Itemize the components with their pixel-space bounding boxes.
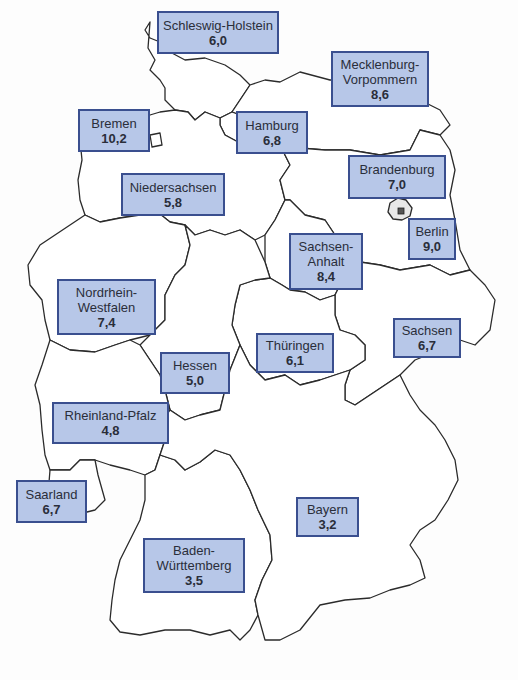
label-thueringen[interactable]: Thüringen 6,1	[256, 333, 334, 373]
state-name-line2: Westfalen	[78, 300, 136, 315]
state-name-line2: Württemberg	[156, 558, 231, 573]
state-name: Schleswig-Holstein	[163, 18, 273, 33]
label-sachsen-anhalt[interactable]: Sachsen- Anhalt 8,4	[289, 233, 363, 290]
label-rheinland-pfalz[interactable]: Rheinland-Pfalz 4,8	[52, 402, 169, 444]
state-name-line2: Vorpommern	[343, 72, 417, 87]
label-niedersachsen[interactable]: Niedersachsen 5,8	[121, 173, 225, 216]
state-value: 6,7	[42, 502, 60, 517]
label-hamburg[interactable]: Hamburg 6,8	[236, 111, 308, 154]
state-name: Sachsen	[402, 323, 453, 338]
state-name-line2: Anhalt	[308, 254, 345, 269]
state-value: 3,2	[318, 517, 336, 532]
state-name: Thüringen	[266, 338, 325, 353]
state-value: 7,4	[97, 315, 115, 330]
label-bremen[interactable]: Bremen 10,2	[78, 109, 150, 152]
label-baden-wuerttemberg[interactable]: Baden- Württemberg 3,5	[143, 538, 245, 593]
label-hessen[interactable]: Hessen 5,0	[160, 352, 230, 394]
state-value: 3,5	[185, 573, 203, 588]
state-name: Saarland	[25, 487, 77, 502]
state-name-line1: Sachsen-	[299, 239, 354, 254]
state-name-line1: Nordrhein-	[76, 285, 137, 300]
label-bayern[interactable]: Bayern 3,2	[296, 497, 359, 537]
state-value: 6,7	[418, 338, 436, 353]
state-value: 6,0	[209, 33, 227, 48]
state-name: Berlin	[415, 224, 448, 239]
state-name-line1: Mecklenburg-	[341, 57, 420, 72]
state-name: Bremen	[91, 116, 137, 131]
berlin-marker-icon	[398, 208, 404, 214]
state-bremen[interactable]	[150, 133, 162, 147]
label-berlin[interactable]: Berlin 9,0	[408, 218, 456, 260]
state-name: Hessen	[173, 358, 217, 373]
label-saarland[interactable]: Saarland 6,7	[16, 480, 87, 523]
state-name: Brandenburg	[359, 162, 434, 177]
state-value: 10,2	[101, 131, 126, 146]
label-mecklenburg-vorpommern[interactable]: Mecklenburg- Vorpommern 8,6	[331, 51, 429, 107]
state-name: Niedersachsen	[130, 180, 217, 195]
state-value: 5,8	[164, 195, 182, 210]
label-brandenburg[interactable]: Brandenburg 7,0	[348, 155, 446, 199]
state-name: Rheinland-Pfalz	[65, 408, 157, 423]
state-value: 6,1	[286, 353, 304, 368]
label-nordrhein-westfalen[interactable]: Nordrhein- Westfalen 7,4	[57, 279, 156, 335]
state-value: 8,6	[371, 87, 389, 102]
state-value: 5,0	[186, 373, 204, 388]
state-value: 8,4	[317, 269, 335, 284]
state-value: 9,0	[423, 239, 441, 254]
state-name: Hamburg	[245, 118, 298, 133]
state-value: 7,0	[388, 177, 406, 192]
label-schleswig-holstein[interactable]: Schleswig-Holstein 6,0	[157, 11, 279, 54]
label-sachsen[interactable]: Sachsen 6,7	[393, 318, 461, 358]
state-name: Bayern	[307, 502, 348, 517]
state-value: 6,8	[263, 133, 281, 148]
state-name-line1: Baden-	[173, 543, 215, 558]
state-value: 4,8	[101, 423, 119, 438]
